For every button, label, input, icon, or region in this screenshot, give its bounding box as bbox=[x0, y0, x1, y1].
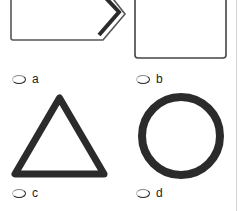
radio-c[interactable] bbox=[12, 189, 26, 198]
circle-icon bbox=[0, 0, 242, 211]
option-c[interactable]: c bbox=[12, 187, 38, 199]
option-d-label: d bbox=[156, 187, 163, 199]
option-d[interactable]: d bbox=[136, 187, 163, 199]
radio-b[interactable] bbox=[136, 75, 150, 84]
option-c-label: c bbox=[32, 187, 38, 199]
radio-a[interactable] bbox=[12, 75, 26, 84]
radio-d[interactable] bbox=[136, 189, 150, 198]
option-a-label: a bbox=[32, 73, 39, 85]
option-a[interactable]: a bbox=[12, 73, 39, 85]
option-b-label: b bbox=[156, 73, 163, 85]
option-b[interactable]: b bbox=[136, 73, 163, 85]
